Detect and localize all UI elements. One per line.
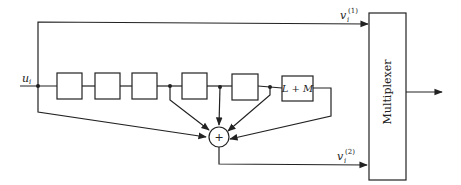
svg-text:(1): (1) xyxy=(348,7,358,15)
svg-text:v: v xyxy=(337,150,344,163)
svg-text:i: i xyxy=(344,157,346,165)
input-label: u i xyxy=(22,72,31,86)
svg-text:i: i xyxy=(29,78,31,86)
svg-text:v: v xyxy=(340,9,347,22)
svg-text:(2): (2) xyxy=(345,148,355,156)
delay-block-5 xyxy=(232,74,258,100)
delay-block-3 xyxy=(132,73,157,99)
multiplexer-label: Multiplexer xyxy=(381,59,394,125)
output-1-label: v i (1) xyxy=(340,7,358,24)
tap-line-2 xyxy=(219,87,220,125)
svg-text:i: i xyxy=(347,16,349,24)
adder-symbol: + xyxy=(214,131,223,144)
delay-block-2 xyxy=(95,73,120,99)
delay-block-4 xyxy=(182,73,207,99)
output-2-label: v i (2) xyxy=(337,148,355,165)
delay-block-1 xyxy=(57,73,82,99)
encoder-diagram: L + M + Multiplexer u i v i (1) v i (2) xyxy=(0,0,461,185)
final-block-label: L + M xyxy=(281,83,314,94)
